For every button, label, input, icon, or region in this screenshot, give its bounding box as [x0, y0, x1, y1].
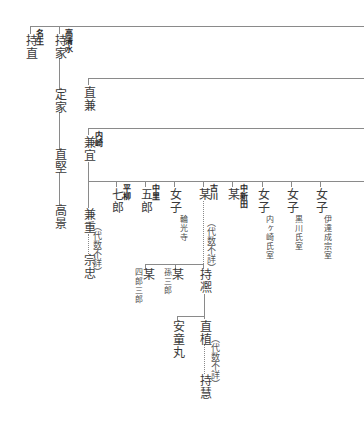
- person-name: 持直: [24, 34, 36, 60]
- person-name: 某: [170, 268, 182, 281]
- drop-2: [145, 181, 146, 187]
- drop-5: [232, 181, 233, 187]
- person-name: 持慧: [198, 374, 210, 400]
- person-name: 女子: [285, 188, 297, 214]
- person-name: 女子: [256, 188, 268, 214]
- takashimizu-line-2: [59, 112, 60, 150]
- person-name: 高景: [53, 204, 65, 230]
- person-name: 直植: [198, 320, 210, 346]
- dotted-kaneshige-munetada: [88, 234, 89, 254]
- person-name: 定家: [53, 88, 65, 114]
- dotted-naoue-mochie: [204, 344, 205, 374]
- drop-3: [174, 181, 175, 187]
- takashimizu-line-3: [59, 172, 60, 206]
- person-name: 持凞: [198, 268, 210, 294]
- person-name: 兼宜: [82, 136, 94, 162]
- top-line: [30, 26, 364, 27]
- clan-label: 中新田: [238, 184, 247, 208]
- mochihiro-down: [204, 294, 205, 319]
- naokane-drop: [88, 78, 89, 85]
- kanenori-line: [88, 128, 364, 129]
- person-note: 輪光寺: [178, 215, 187, 242]
- takashimizu-line: [59, 58, 60, 90]
- furukawa-children-line: [145, 264, 203, 265]
- person-name: 安童丸: [171, 320, 183, 359]
- line-to-mochiie: [59, 26, 60, 34]
- generations-unknown-note: （代数不詳）: [206, 218, 216, 272]
- person-name: 持家: [53, 34, 65, 60]
- person-note: 黒川氏室: [293, 215, 302, 251]
- drop-1: [116, 181, 117, 187]
- person-name: 女子: [314, 188, 326, 214]
- person-name: 某: [197, 188, 209, 201]
- kanenori-to-kaneshige: [88, 162, 89, 208]
- generations-unknown-note: （代数不詳）: [210, 334, 220, 388]
- person-name: 某: [226, 188, 238, 201]
- person-note: 伊達成宗室: [322, 215, 331, 260]
- person-note: 四郎三郎: [133, 268, 142, 304]
- person-name: 某: [141, 268, 153, 281]
- line-to-mochinao: [30, 26, 31, 34]
- drop-7: [291, 181, 292, 187]
- kanenori-drop: [88, 128, 89, 135]
- children-line: [88, 181, 364, 182]
- person-note: 内ヶ崎氏室: [264, 215, 273, 260]
- drop-8: [320, 181, 321, 187]
- drop-4: [203, 181, 204, 187]
- person-name: 直兼: [82, 86, 94, 112]
- person-name: 宗忠: [82, 254, 94, 280]
- naokane-line: [88, 78, 364, 79]
- drop-6: [262, 181, 263, 187]
- person-note: 孫三郎: [162, 268, 171, 295]
- person-name: 七郎: [110, 188, 122, 214]
- person-name: 直堅: [53, 148, 65, 174]
- dotted-furukawa: [203, 201, 204, 264]
- person-name: 女子: [168, 188, 180, 214]
- mochihiro-children-line: [177, 316, 204, 317]
- person-name: 五郎: [139, 188, 151, 214]
